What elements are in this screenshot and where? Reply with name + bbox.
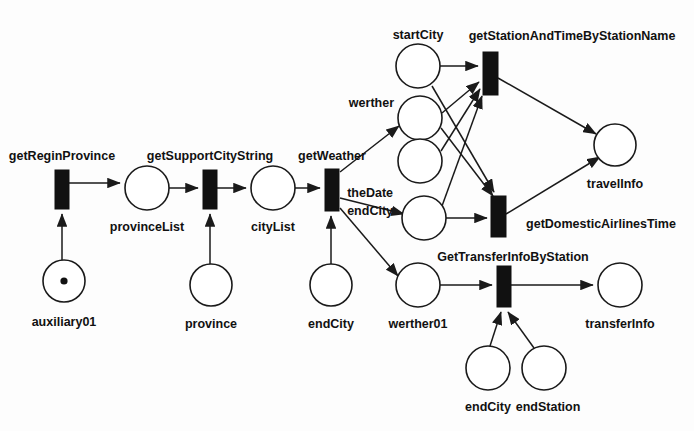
- place-provinceList[interactable]: [125, 166, 169, 210]
- place-label-cityList: cityList: [251, 220, 296, 234]
- place-endCityLeft[interactable]: [310, 264, 352, 306]
- place-circle-provinceList[interactable]: [125, 166, 169, 210]
- transition-label-getWeather: getWeather: [298, 149, 366, 163]
- place-circle-werther[interactable]: [398, 96, 442, 140]
- transition-label-getReginProvince: getReginProvince: [9, 149, 115, 163]
- place-label-theDate: theDate: [347, 186, 393, 200]
- place-travelInfo[interactable]: [594, 124, 636, 166]
- transition-getSupportCityString[interactable]: [203, 170, 217, 209]
- place-label-provinceList: provinceList: [110, 220, 185, 234]
- transition-label-getStationAndTimeByStationName: getStationAndTimeByStationName: [469, 29, 676, 43]
- place-circle-endCityBottom[interactable]: [466, 346, 510, 390]
- place-label-endCityBottom: endCity: [465, 400, 511, 414]
- arc-startCity-to-getDomesticAirlinesTime: [432, 86, 494, 192]
- transition-getDomesticAirlinesTime[interactable]: [491, 196, 506, 237]
- place-auxiliary01[interactable]: [43, 260, 85, 302]
- place-label-endCityLeft: endCity: [308, 317, 354, 331]
- transition-getWeather[interactable]: [325, 169, 339, 211]
- place-label-transferInfo: transferInfo: [585, 317, 655, 331]
- labels-layer: auxiliary01provinceListprovincecityListe…: [9, 28, 676, 414]
- transition-label-getDomesticAirlinesTime: getDomesticAirlinesTime: [526, 217, 676, 231]
- place-label-werther01: werther01: [387, 317, 447, 331]
- arc-werther-to-getStationAndTimeByStationName: [442, 82, 479, 113]
- place-circle-transferInfo[interactable]: [598, 263, 642, 307]
- place-circle-endStation[interactable]: [522, 346, 566, 390]
- place-endCityBottom[interactable]: [466, 346, 510, 390]
- place-circle-endCityLeft[interactable]: [310, 264, 352, 306]
- petri-net-diagram: auxiliary01provinceListprovincecityListe…: [0, 0, 694, 431]
- place-label-startCity: startCity: [393, 28, 444, 42]
- transition-GetTransferInfoByStation[interactable]: [497, 266, 511, 307]
- place-circle-theDate[interactable]: [398, 139, 442, 183]
- petri-net-canvas: auxiliary01provinceListprovincecityListe…: [0, 0, 694, 431]
- place-werther01[interactable]: [396, 263, 440, 307]
- place-label-auxiliary01: auxiliary01: [32, 315, 97, 329]
- place-circle-endCityMid[interactable]: [402, 196, 446, 240]
- place-label-endStation: endStation: [516, 400, 581, 414]
- arc-endCityBottom-to-GetTransferInfoByStation: [490, 312, 501, 346]
- transition-label-getSupportCityString: getSupportCityString: [147, 149, 273, 163]
- place-circle-werther01[interactable]: [396, 263, 440, 307]
- place-label-travelInfo: travelInfo: [587, 177, 644, 191]
- place-circle-travelInfo[interactable]: [594, 124, 636, 166]
- arc-endStation-to-GetTransferInfoByStation: [508, 312, 534, 348]
- transition-getStationAndTimeByStationName[interactable]: [483, 52, 498, 95]
- place-endCityMid[interactable]: [402, 196, 446, 240]
- place-startCity[interactable]: [396, 44, 440, 88]
- transition-getReginProvince[interactable]: [55, 170, 69, 209]
- token-dot-auxiliary01: [60, 277, 67, 284]
- place-province[interactable]: [190, 264, 232, 306]
- place-theDate[interactable]: [398, 139, 442, 183]
- place-label-werther: werther: [348, 96, 394, 110]
- place-endStation[interactable]: [522, 346, 566, 390]
- place-label-endCityMid: endCity: [347, 204, 393, 218]
- arc-getStationAndTimeByStationName-to-travelInfo: [498, 78, 596, 134]
- place-circle-cityList[interactable]: [251, 166, 295, 210]
- place-circle-province[interactable]: [190, 264, 232, 306]
- place-werther[interactable]: [398, 96, 442, 140]
- transition-label-GetTransferInfoByStation: GetTransferInfoByStation: [437, 250, 588, 264]
- place-circle-startCity[interactable]: [396, 44, 440, 88]
- place-label-province: province: [185, 317, 237, 331]
- place-transferInfo[interactable]: [598, 263, 642, 307]
- place-cityList[interactable]: [251, 166, 295, 210]
